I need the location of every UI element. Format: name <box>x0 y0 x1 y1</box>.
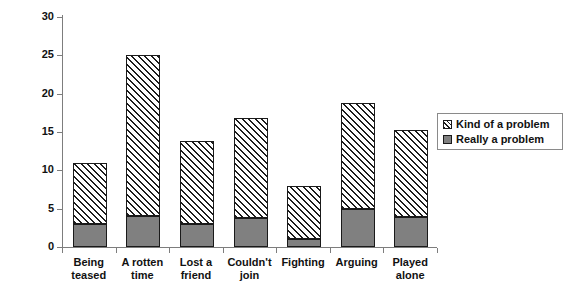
y-axis-tick-label: 25 <box>14 49 54 60</box>
bar-couldn-t-join <box>234 118 268 247</box>
plot-area <box>63 17 429 247</box>
legend-swatch-solid-icon <box>443 135 452 144</box>
x-axis-tick <box>62 248 63 253</box>
x-axis-tick <box>276 248 277 253</box>
bar-segment-kind-of-a-problem <box>287 186 321 239</box>
y-axis-tick-label: 0 <box>14 241 54 252</box>
legend-label-kind-of-a-problem: Kind of a problem <box>456 119 550 130</box>
y-axis-tick-label: 15 <box>14 126 54 137</box>
x-axis-tick <box>383 248 384 253</box>
y-axis-tick-label: 20 <box>14 88 54 99</box>
bar-segment-kind-of-a-problem <box>73 163 107 224</box>
bar-segment-really-a-problem <box>394 217 428 247</box>
bar-segment-kind-of-a-problem <box>126 55 160 216</box>
legend-label-really-a-problem: Really a problem <box>456 134 544 145</box>
bar-being-teased <box>73 163 107 247</box>
bar-segment-kind-of-a-problem <box>180 141 214 224</box>
x-axis-tick <box>169 248 170 253</box>
x-axis-line <box>62 247 437 248</box>
x-axis-label-line: Played <box>372 256 448 269</box>
x-axis-tick <box>330 248 331 253</box>
bar-segment-really-a-problem <box>287 239 321 247</box>
chart-legend: Kind of a problem Really a problem <box>437 113 563 150</box>
bar-segment-really-a-problem <box>341 209 375 247</box>
x-axis-tick <box>116 248 117 253</box>
y-axis-tick-label: 30 <box>14 11 54 22</box>
y-axis-tick-label: 5 <box>14 203 54 214</box>
bar-fighting <box>287 186 321 247</box>
y-axis-tick-label: 10 <box>14 164 54 175</box>
bar-played-alone <box>394 130 428 247</box>
bar-segment-really-a-problem <box>180 224 214 247</box>
bar-arguing <box>341 103 375 247</box>
legend-entry-kind-of-a-problem: Kind of a problem <box>443 117 562 132</box>
x-axis-tick <box>223 248 224 253</box>
bar-a-rotten-time <box>126 55 160 247</box>
bar-segment-kind-of-a-problem <box>234 118 268 218</box>
legend-entry-really-a-problem: Really a problem <box>443 132 562 147</box>
legend-swatch-hatch-icon <box>443 120 452 129</box>
x-axis-label-line: join <box>212 269 288 282</box>
bar-lost-a-friend <box>180 141 214 247</box>
x-axis-tick <box>437 248 438 253</box>
bar-segment-really-a-problem <box>234 218 268 247</box>
bar-segment-kind-of-a-problem <box>341 103 375 210</box>
bar-segment-really-a-problem <box>126 216 160 247</box>
stacked-bar-chart: 302520151050 BeingteasedA rottentimeLost… <box>0 0 567 302</box>
bar-segment-really-a-problem <box>73 224 107 247</box>
x-axis-label-line: alone <box>372 269 448 282</box>
bar-segment-kind-of-a-problem <box>394 130 428 217</box>
x-axis-label-played-alone: Playedalone <box>372 256 448 282</box>
